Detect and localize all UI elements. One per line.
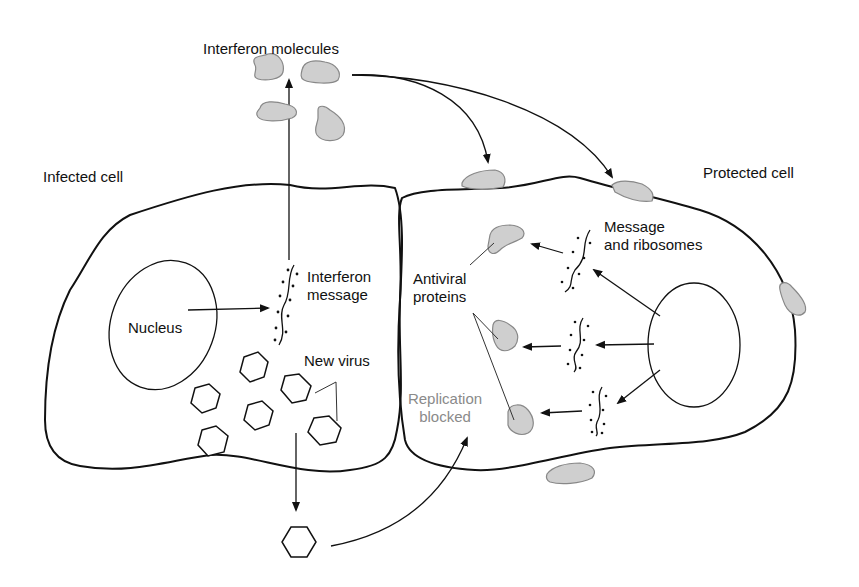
label-interferon-message: Interferon message — [307, 268, 371, 304]
nucleus-to-message-arrow — [188, 308, 268, 310]
label-antiviral-proteins: Antiviral proteins — [413, 270, 466, 306]
antiviral-protein-2 — [492, 320, 517, 350]
antiviral-pointer-1 — [470, 243, 494, 265]
molecules-to-protected-arrow-1 — [352, 75, 488, 162]
molecules-to-protected-arrow-2 — [352, 75, 612, 177]
bound-interferon-right — [780, 283, 806, 315]
label-interferon-message-line1: Interferon — [307, 268, 371, 286]
mrna-to-protein-arrow-2 — [524, 346, 561, 347]
label-message-ribosomes-line1: Message — [604, 218, 702, 236]
interferon-diagram: Interferon molecules Infected cell Prote… — [0, 0, 859, 587]
interferon-message-mrna — [274, 265, 299, 345]
interferon-molecules-cluster — [254, 54, 345, 141]
message-ribosomes-mrna-3 — [589, 387, 608, 436]
label-antiviral-line2: proteins — [413, 288, 466, 306]
bound-interferon-top-left — [462, 170, 505, 189]
label-replication-line1: Replication — [400, 390, 490, 408]
virus-to-protected-arrow — [331, 438, 467, 546]
label-new-virus: New virus — [304, 352, 370, 370]
new-virus-pointer — [315, 382, 337, 421]
released-virus — [282, 527, 316, 557]
label-infected-cell: Infected cell — [43, 168, 123, 186]
infected-cell-membrane — [45, 184, 402, 472]
label-interferon-molecules: Interferon molecules — [203, 40, 339, 58]
nucleus-to-mrna-arrow-1 — [594, 270, 660, 316]
antiviral-protein-1 — [488, 225, 524, 253]
label-message-ribosomes: Message and ribosomes — [604, 218, 702, 254]
label-antiviral-line1: Antiviral — [413, 270, 466, 288]
antiviral-protein-3 — [508, 405, 533, 434]
label-replication-blocked: Replication blocked — [400, 390, 490, 426]
label-protected-cell: Protected cell — [703, 164, 794, 182]
message-ribosomes-mrna-2 — [567, 318, 590, 372]
mrna-to-protein-arrow-1 — [532, 244, 563, 253]
nucleus-to-mrna-arrow-2 — [597, 344, 654, 345]
protected-cell-membrane — [398, 177, 795, 471]
message-ribosomes-mrna-1 — [561, 230, 592, 292]
protected-nucleus — [648, 283, 740, 407]
label-nucleus: Nucleus — [128, 319, 182, 337]
label-replication-line2: blocked — [400, 408, 490, 426]
bound-interferon-top-right — [612, 181, 653, 201]
label-message-ribosomes-line2: and ribosomes — [604, 236, 702, 254]
label-interferon-message-line2: message — [307, 286, 371, 304]
mrna-to-protein-arrow-3 — [542, 411, 582, 413]
nucleus-to-mrna-arrow-3 — [618, 370, 660, 403]
bound-interferon-bottom — [546, 463, 594, 484]
